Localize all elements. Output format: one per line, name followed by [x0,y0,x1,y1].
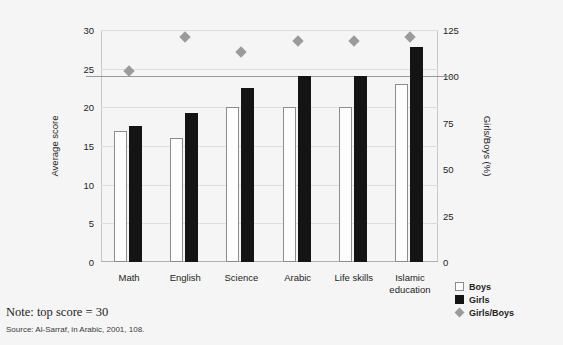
bar-girls[interactable] [298,76,311,262]
marker-girls-boys[interactable] [123,65,134,76]
x-label-arabic: Arabic [270,272,326,295]
marker-girls-boys[interactable] [292,36,303,47]
bar-boys[interactable] [283,107,296,262]
marker-girls-boys[interactable] [404,32,415,43]
marker-girls-boys[interactable] [348,36,359,47]
bar-boys[interactable] [339,107,352,262]
marker-girls-boys[interactable] [236,47,247,58]
bar-boys[interactable] [170,138,183,262]
diamond-marker-icon [455,308,464,317]
x-label-islamic-line1: Islamic [395,272,425,283]
bar-groups [101,30,438,262]
legend-item-boys[interactable]: Boys [455,281,514,292]
y-tick-left: 15 [83,141,94,152]
x-axis-labels: Math English Science Arabic Life skills … [101,272,438,295]
x-label-islamic-line2: education [389,284,430,295]
y-axis-right-ticks: 125 100 75 50 25 0 [443,30,469,262]
x-label-life-skills: Life skills [326,272,382,295]
y-tick-left: 0 [89,257,94,268]
y-tick-left: 10 [83,179,94,190]
bar-group-english [157,30,213,262]
x-label-science: Science [213,272,269,295]
bar-boys[interactable] [226,107,239,262]
bar-group-science [213,30,269,262]
y-tick-left: 20 [83,102,94,113]
bar-girls[interactable] [354,76,367,262]
bar-boys[interactable] [395,84,408,262]
girls-swatch-icon [455,295,464,304]
bar-girls[interactable] [410,47,423,262]
chart-container: Average score 30 25 20 15 10 5 0 Girls/B… [0,0,563,345]
legend-label-girls: Girls [469,295,490,305]
y-tick-right: 50 [443,164,454,175]
legend-item-girls[interactable]: Girls [455,294,514,305]
x-label-math: Math [101,272,157,295]
y-tick-right: 25 [443,210,454,221]
marker-girls-boys[interactable] [180,32,191,43]
bar-group-life-skills [326,30,382,262]
chart-note: Note: top score = 30 [6,305,108,320]
bar-girls[interactable] [129,126,142,262]
x-label-english: English [157,272,213,295]
legend-label-girls-boys: Girls/Boys [469,308,514,318]
legend: Boys Girls Girls/Boys [455,281,514,320]
bar-boys[interactable] [114,131,127,262]
y-tick-left: 5 [89,218,94,229]
y-tick-right: 0 [443,257,448,268]
y-tick-left: 30 [83,25,94,36]
bar-group-arabic [270,30,326,262]
y-axis-left-ticks: 30 25 20 15 10 5 0 [68,30,94,262]
y-tick-left: 25 [83,63,94,74]
y-axis-right-title: Girls/Boys (%) [482,116,493,177]
boys-swatch-icon [455,282,464,291]
y-axis-left-title: Average score [49,115,60,176]
bar-girls[interactable] [241,88,254,262]
y-tick-right: 125 [443,25,459,36]
plot-area [101,30,438,262]
x-label-islamic-education: Islamic education [382,272,438,295]
bar-girls[interactable] [185,113,198,262]
bar-group-math [101,30,157,262]
legend-label-boys: Boys [469,282,491,292]
chart-source: Source: Al-Sarraf, in Arabic, 2001, 108. [6,325,144,334]
bar-group-islamic-education [382,30,438,262]
legend-item-girls-boys[interactable]: Girls/Boys [455,307,514,318]
y-tick-right: 75 [443,117,454,128]
